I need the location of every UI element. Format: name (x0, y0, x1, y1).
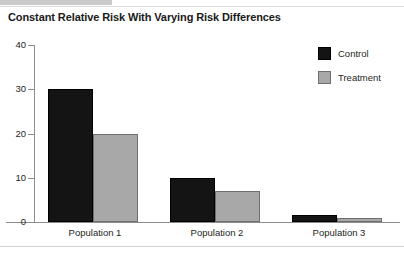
x-axis-label-1: Population 1 (34, 227, 156, 238)
x-axis-line (6, 222, 400, 223)
y-axis-tick (28, 134, 34, 135)
bar-treatment-2 (215, 191, 260, 222)
y-axis-tick-label-wrap: 20 (0, 129, 26, 139)
y-axis-tick (28, 89, 34, 90)
y-axis-tick-label: 0 (2, 217, 26, 227)
bar-control-3 (292, 215, 337, 222)
legend-item-control: Control (318, 43, 381, 63)
chart-figure: Constant Relative Risk With Varying Risk… (0, 0, 404, 253)
y-axis-tick-label: 30 (2, 84, 26, 94)
y-axis-tick (28, 222, 34, 223)
y-axis-tick-label-wrap: 30 (0, 84, 26, 94)
y-axis-tick-label: 20 (2, 129, 26, 139)
footer-divider (0, 246, 404, 247)
header-divider (0, 6, 404, 7)
legend-swatch-control-icon (318, 47, 331, 60)
y-axis-tick-label-wrap: 10 (0, 173, 26, 183)
y-axis-tick (28, 178, 34, 179)
legend-label-control: Control (338, 48, 369, 59)
top-band-decoration (0, 0, 112, 5)
x-axis-label-2: Population 2 (156, 227, 278, 238)
y-axis-tick-label-wrap: 40 (0, 40, 26, 50)
bar-control-2 (170, 178, 215, 222)
legend-item-treatment: Treatment (318, 67, 381, 87)
y-axis-line (34, 45, 35, 223)
y-axis-tick (28, 45, 34, 46)
y-axis-tick-label-wrap: 0 (0, 217, 26, 227)
bar-control-1 (48, 89, 93, 222)
y-axis-tick-label: 10 (2, 173, 26, 183)
chart-title: Constant Relative Risk With Varying Risk… (8, 11, 281, 23)
legend-label-treatment: Treatment (338, 72, 381, 83)
y-axis-tick-label: 40 (2, 40, 26, 50)
legend-swatch-treatment-icon (318, 71, 331, 84)
x-axis-label-3: Population 3 (278, 227, 400, 238)
chart-legend: Control Treatment (318, 43, 381, 91)
bar-treatment-3 (337, 218, 382, 222)
bar-treatment-1 (93, 134, 138, 223)
